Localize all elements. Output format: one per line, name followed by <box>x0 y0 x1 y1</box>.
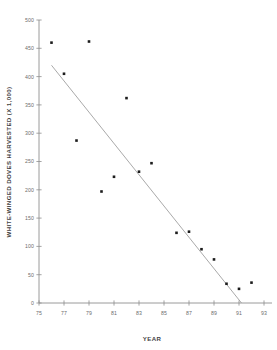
data-point <box>225 282 228 285</box>
y-tick-label: 350 <box>25 102 34 108</box>
data-point <box>125 97 128 100</box>
x-axis-tick-labels: 75777981838587899193 <box>36 310 267 316</box>
y-tick-label: 150 <box>25 215 34 221</box>
y-tick-label: 0 <box>31 300 34 306</box>
data-point <box>238 288 241 291</box>
data-point <box>113 175 116 178</box>
x-tick-label: 79 <box>86 310 92 316</box>
x-tick-label: 83 <box>136 310 142 316</box>
data-point <box>188 230 191 233</box>
data-point-series <box>50 40 253 290</box>
x-tick-label: 91 <box>236 310 242 316</box>
y-tick-label: 100 <box>25 243 34 249</box>
y-axis-title: WHITE-WINGED DOVES HARVESTED (X 1,000) <box>5 87 12 238</box>
data-point <box>50 41 53 44</box>
y-tick-label: 300 <box>25 130 34 136</box>
data-point <box>75 139 78 142</box>
x-tick-label: 75 <box>36 310 42 316</box>
data-point <box>250 281 253 284</box>
y-tick-label: 400 <box>25 74 34 80</box>
scatter-plot-figure: 050100150200250300350400450500 757779818… <box>0 0 277 350</box>
chart-canvas: 050100150200250300350400450500 757779818… <box>0 0 277 350</box>
x-tick-label: 77 <box>61 310 67 316</box>
y-axis-tick-labels: 050100150200250300350400450500 <box>25 17 34 306</box>
regression-trend-line <box>52 65 242 303</box>
data-point <box>150 162 153 165</box>
x-tick-label: 85 <box>161 310 167 316</box>
x-tick-label: 87 <box>186 310 192 316</box>
y-axis-group: 050100150200250300350400450500 <box>25 17 42 306</box>
x-tick-label: 89 <box>211 310 217 316</box>
data-point <box>175 232 178 235</box>
y-tick-label: 50 <box>28 272 34 278</box>
data-point <box>63 72 66 75</box>
x-tick-label: 93 <box>261 310 267 316</box>
data-point <box>88 40 91 43</box>
data-point <box>200 248 203 251</box>
y-tick-label: 450 <box>25 45 34 51</box>
trend-line-group <box>52 65 242 303</box>
data-point <box>213 258 216 261</box>
x-tick-label: 81 <box>111 310 117 316</box>
y-tick-label: 500 <box>25 17 34 23</box>
y-tick-label: 200 <box>25 187 34 193</box>
y-tick-label: 250 <box>25 158 34 164</box>
x-axis-title: YEAR <box>143 335 162 342</box>
data-point <box>138 170 141 173</box>
data-point <box>100 190 103 193</box>
x-axis-group: 75777981838587899193 <box>36 300 272 315</box>
